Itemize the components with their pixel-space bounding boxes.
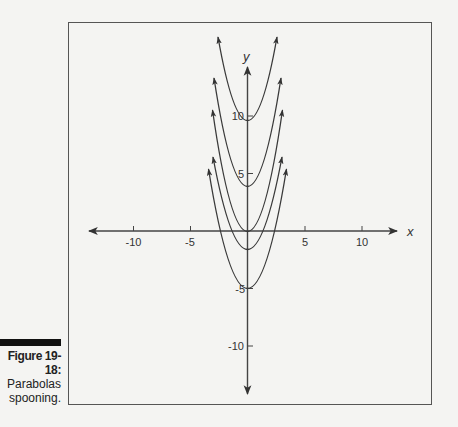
y-axis-label: y	[242, 49, 251, 64]
figure-caption: Figure 19-18: Parabolas spooning.	[0, 339, 61, 405]
y-tick-label: -10	[228, 340, 244, 352]
caption-text-line1: Parabolas	[0, 377, 61, 391]
parabola-plot: -10 -5 5 10 10 5 -5 -10 x y	[0, 0, 458, 427]
caption-text-line2: spooning.	[0, 391, 61, 405]
x-tick-label: 5	[302, 236, 308, 248]
x-tick-label: 10	[356, 236, 368, 248]
x-axis-label: x	[406, 224, 414, 239]
figure-label: Figure 19-18:	[0, 349, 61, 377]
caption-bar	[0, 339, 61, 346]
x-tick-label: -10	[126, 236, 142, 248]
y-tick-label: 5	[238, 168, 244, 180]
x-tick-label: -5	[185, 236, 195, 248]
